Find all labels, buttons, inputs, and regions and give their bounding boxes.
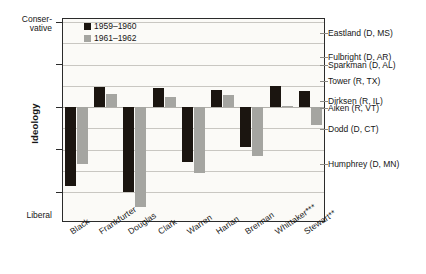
bar (94, 87, 105, 107)
bar (123, 107, 134, 192)
bar (311, 107, 322, 125)
bar-group (299, 19, 328, 221)
bar-group (65, 19, 94, 221)
reference-label: Dodd (D, CT) (328, 125, 379, 134)
reference-leader-line (320, 81, 328, 82)
reference-leader-line (320, 33, 328, 34)
legend-swatch-icon-series-1 (84, 35, 91, 42)
bar-group (94, 19, 123, 221)
reference-label: Aiken (R, VT) (328, 104, 379, 113)
legend-item-1959-1960: 1959–1960 (84, 20, 137, 32)
bar (77, 107, 88, 164)
bar-group (182, 19, 211, 221)
legend-swatch-icon-series-0 (84, 23, 91, 30)
legend-label-series-1: 1961–1962 (94, 32, 137, 44)
bar (135, 107, 146, 207)
reference-label: Sparkman (D, AL) (328, 61, 396, 70)
bar (270, 86, 281, 107)
bar-group (211, 19, 240, 221)
y-axis-title: Ideology (29, 82, 40, 166)
bar-group (240, 19, 269, 221)
bar-group (153, 19, 182, 221)
reference-label: Tower (R, TX) (328, 77, 380, 86)
bar-group (123, 19, 152, 221)
reference-leader-line (320, 108, 328, 109)
bar (182, 107, 193, 162)
y-axis-pole-conservative: Conser- vative (4, 15, 52, 33)
x-axis-labels: BlackFrankfurterDouglasClarkWarrenHarlan… (0, 224, 426, 274)
plot-area (62, 18, 325, 222)
bar (153, 88, 164, 107)
reference-leader-line (320, 57, 328, 58)
ideology-bar-chart: Conser- vative Liberal Ideology 2 1 0 -1… (0, 0, 426, 274)
bar (194, 107, 205, 173)
bar (240, 107, 251, 147)
legend: 1959–1960 1961–1962 (84, 20, 137, 45)
legend-item-1961-1962: 1961–1962 (84, 32, 137, 44)
y-axis-pole-conservative-line2: vative (4, 24, 52, 33)
bar (106, 94, 117, 107)
bar-group (270, 19, 299, 221)
bars-layer (63, 19, 324, 221)
bar (223, 95, 234, 107)
bar (211, 90, 222, 107)
reference-leader-line (320, 129, 328, 130)
reference-leader-line (320, 65, 328, 66)
reference-label: Humphrey (D, MN) (328, 160, 399, 169)
bar (165, 97, 176, 107)
legend-label-series-0: 1959–1960 (94, 20, 137, 32)
bar (299, 91, 310, 107)
bar (252, 107, 263, 156)
y-axis-pole-liberal: Liberal (4, 211, 52, 220)
reference-label: Eastland (D, MS) (328, 29, 393, 38)
bar (65, 107, 76, 186)
bar (282, 106, 293, 107)
reference-leader-line (320, 101, 328, 102)
reference-leader-line (320, 164, 328, 165)
